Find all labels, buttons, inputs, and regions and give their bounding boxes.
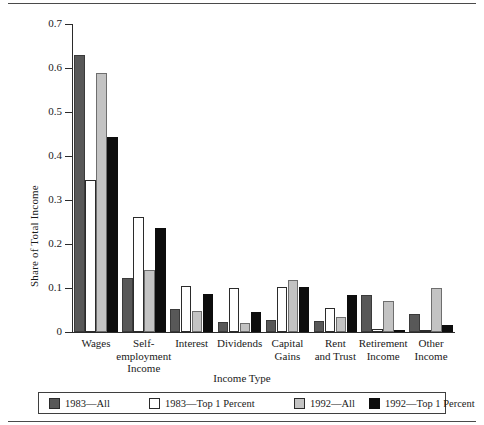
bar-group (314, 24, 358, 332)
x-axis-category-label-line: employment (114, 350, 174, 363)
x-axis-category-label-line: Other (401, 337, 461, 350)
bar (192, 311, 203, 332)
legend-swatch-icon (294, 398, 305, 409)
bar (266, 320, 277, 332)
y-axis-tick (65, 200, 72, 201)
bar (325, 308, 336, 332)
legend-item-label: 1992—All (310, 398, 355, 409)
legend-swatch-icon (149, 398, 160, 409)
bar (420, 330, 431, 332)
bar (288, 280, 299, 332)
legend-item-label: 1992—Top 1 Percent (385, 398, 475, 409)
bar (122, 278, 133, 332)
bar (372, 329, 383, 332)
bar (336, 317, 347, 332)
legend-swatch-icon (369, 398, 380, 409)
bar (394, 330, 405, 332)
bar (442, 325, 453, 332)
x-axis-category-label: OtherIncome (401, 337, 461, 362)
y-axis-tick (65, 288, 72, 289)
bar-group (74, 24, 118, 332)
y-axis-tick (65, 332, 72, 333)
bar (74, 55, 85, 332)
chart-legend: 1983—All1983—Top 1 Percent1992—All1992—T… (38, 392, 446, 414)
bar (181, 286, 192, 332)
bar (314, 321, 325, 332)
y-axis-line (72, 24, 73, 333)
y-axis-tick (65, 24, 72, 25)
grouped-bar-chart: 00.10.20.30.40.50.60.7 Share of Total In… (0, 0, 484, 425)
bar (361, 295, 372, 332)
bar (251, 312, 262, 332)
x-axis-category-label-line: Income (401, 350, 461, 363)
bar-group (266, 24, 310, 332)
y-axis-tick (65, 156, 72, 157)
bar (218, 322, 229, 332)
bar (277, 287, 288, 332)
bar-group (170, 24, 214, 332)
bottom-horizontal-rule (8, 421, 476, 422)
bar (85, 180, 96, 332)
bar (347, 295, 358, 332)
legend-item-label: 1983—All (65, 398, 110, 409)
bar (431, 288, 442, 332)
legend-item[interactable]: 1992—Top 1 Percent (369, 398, 475, 409)
bar (229, 288, 240, 332)
y-axis-tick (65, 112, 72, 113)
legend-item[interactable]: 1983—All (49, 398, 110, 409)
bar-group (218, 24, 262, 332)
legend-item[interactable]: 1992—All (294, 398, 355, 409)
y-axis-tick-label: 0.6 (34, 62, 62, 73)
bar (409, 314, 420, 332)
x-axis-title: Income Type (0, 372, 484, 384)
bar (133, 217, 144, 332)
bar (383, 301, 394, 332)
bar-group (122, 24, 166, 332)
bar-group (409, 24, 453, 332)
bar (155, 228, 166, 332)
bar-group (361, 24, 405, 332)
y-axis-tick-label: 0.5 (34, 106, 62, 117)
bar (240, 323, 251, 332)
legend-swatch-icon (49, 398, 60, 409)
y-axis-title-wrapper: Share of Total Income (14, 100, 34, 260)
x-axis-line (72, 332, 455, 333)
legend-item[interactable]: 1983—Top 1 Percent (149, 398, 255, 409)
y-axis-tick (65, 244, 72, 245)
bar (144, 270, 155, 332)
y-axis-tick-label: 0 (34, 326, 62, 337)
bar (107, 137, 118, 332)
y-axis-tick-label: 0.7 (34, 18, 62, 29)
y-axis-tick (65, 68, 72, 69)
bar (170, 309, 181, 332)
bar (203, 294, 214, 332)
bar (96, 73, 107, 332)
bar (299, 287, 310, 332)
legend-item-label: 1983—Top 1 Percent (165, 398, 255, 409)
y-axis-title: Share of Total Income (28, 156, 40, 316)
